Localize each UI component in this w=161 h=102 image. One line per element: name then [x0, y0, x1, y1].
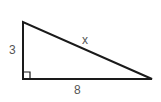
vertical-leg-label: 3: [9, 44, 16, 56]
right-angle-marker: [23, 72, 30, 79]
horizontal-leg-label: 8: [74, 84, 81, 96]
hypotenuse-label: x: [82, 34, 88, 46]
triangle: [23, 22, 152, 79]
